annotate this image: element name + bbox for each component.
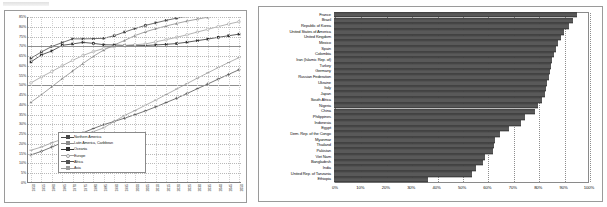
legend-label: Oceania bbox=[74, 146, 87, 152]
y-tick-label: 10% bbox=[6, 161, 26, 165]
bar-category-label: Ethiopia bbox=[259, 177, 333, 182]
bar-category-label: Russian Federation bbox=[259, 75, 333, 80]
bar-category-label: Mexico bbox=[259, 41, 333, 46]
y-tick-label: 40% bbox=[6, 103, 26, 107]
x-tick-label: 2015 bbox=[167, 184, 171, 192]
line-chart-panel: 85%80%75%70%65%60%55%50%45%40%35%30%25%2… bbox=[4, 10, 247, 203]
x-tick-label: 1960 bbox=[52, 184, 56, 192]
bar-category-label: Republic of Korea bbox=[259, 24, 333, 29]
legend-marker-icon bbox=[61, 146, 74, 152]
x-gridline bbox=[218, 17, 219, 182]
x-tick-label: 1990 bbox=[115, 184, 119, 192]
y-tick-label: 15% bbox=[6, 152, 26, 156]
bar-chart-rows: FranceBrazilRepublic of KoreaUnited Stat… bbox=[259, 12, 598, 183]
bar-category-label: Pakistan bbox=[259, 149, 333, 154]
x-tick-label: 1995 bbox=[125, 184, 129, 192]
legend-label: Europe bbox=[74, 153, 85, 159]
x-gridline bbox=[197, 17, 198, 182]
y-tick-label: 25% bbox=[6, 132, 26, 136]
x-tick-label: 2010 bbox=[156, 184, 160, 192]
x-gridline bbox=[177, 17, 178, 182]
y-tick-label: 45% bbox=[6, 93, 26, 97]
legend-marker-icon bbox=[61, 153, 74, 159]
x-gridline bbox=[187, 17, 188, 182]
y-tick-label: 60% bbox=[6, 64, 26, 68]
line-chart-y-axis: 85%80%75%70%65%60%55%50%45%40%35%30%25%2… bbox=[5, 17, 26, 183]
x-gridline bbox=[31, 17, 32, 182]
bar-category-label: Iran (Islamic Rep. of) bbox=[259, 58, 333, 63]
x-tick-label: 1965 bbox=[63, 184, 67, 192]
x-tick-label: 80% bbox=[534, 185, 542, 190]
x-tick-label: 100% bbox=[584, 185, 594, 190]
x-tick-label: 1985 bbox=[104, 184, 108, 192]
x-tick-label: 90% bbox=[560, 185, 568, 190]
x-tick-label: 10% bbox=[356, 185, 364, 190]
x-tick-label: 2025 bbox=[188, 184, 192, 192]
x-tick-label: 2020 bbox=[177, 184, 181, 192]
x-tick-label: 60% bbox=[483, 185, 491, 190]
x-gridline bbox=[52, 17, 53, 182]
bar-chart-x-axis: 0%10%20%30%40%50%60%70%80%90%100% bbox=[335, 185, 589, 197]
bar-fill bbox=[334, 177, 428, 183]
y-tick-label: 30% bbox=[6, 122, 26, 126]
x-gridline bbox=[166, 17, 167, 182]
x-tick-label: 2005 bbox=[146, 184, 150, 192]
bar-category-label: India bbox=[259, 166, 333, 171]
bar-category-label: Dem. Rep. of the Congo bbox=[259, 132, 333, 137]
y-tick-label: 20% bbox=[6, 142, 26, 146]
bar-category-label: Bangladesh bbox=[259, 160, 333, 165]
bar-track bbox=[333, 177, 598, 183]
x-tick-label: 2040 bbox=[219, 184, 223, 192]
y-tick-label: 75% bbox=[6, 35, 26, 39]
x-gridline bbox=[239, 17, 240, 182]
x-gridline bbox=[229, 17, 230, 182]
y-tick-label: 5% bbox=[6, 171, 26, 175]
x-tick-label: 1975 bbox=[84, 184, 88, 192]
y-tick-label: 0% bbox=[6, 181, 26, 185]
x-tick-label: 1970 bbox=[73, 184, 77, 192]
scan-artifact bbox=[3, 2, 49, 6]
legend-marker-icon bbox=[61, 159, 74, 165]
x-tick-label: 50% bbox=[458, 185, 466, 190]
legend-marker-icon bbox=[61, 140, 74, 146]
x-gridline bbox=[41, 17, 42, 182]
line-chart-x-axis: 1950195519601965197019751980198519901995… bbox=[27, 184, 241, 207]
legend-item[interactable]: Asia bbox=[61, 165, 143, 171]
x-tick-label: 2035 bbox=[208, 184, 212, 192]
x-tick-label: 2045 bbox=[229, 184, 233, 192]
bar-category-label: South Africa bbox=[259, 98, 333, 103]
line-chart-legend: Northern AmericaLatin America, Caribbean… bbox=[58, 132, 146, 173]
x-tick-label: 0% bbox=[332, 185, 338, 190]
x-tick-label: 2000 bbox=[136, 184, 140, 192]
bar-chart-panel: FranceBrazilRepublic of KoreaUnited Stat… bbox=[258, 6, 603, 202]
x-tick-label: 1950 bbox=[32, 184, 36, 192]
x-tick-label: 30% bbox=[407, 185, 415, 190]
bar-category-label: Ukraine bbox=[259, 81, 333, 86]
bar-chart-row: Ethiopia bbox=[259, 177, 598, 183]
x-tick-label: 1955 bbox=[42, 184, 46, 192]
legend-label: Latin America, Caribbean bbox=[74, 140, 113, 146]
x-tick-label: 40% bbox=[433, 185, 441, 190]
legend-label: Africa bbox=[74, 159, 83, 165]
x-tick-label: 1980 bbox=[94, 184, 98, 192]
y-tick-label: 65% bbox=[6, 54, 26, 58]
y-tick-label: 80% bbox=[6, 25, 26, 29]
bar-category-label: Philippines bbox=[259, 115, 333, 120]
x-tick-label: 20% bbox=[382, 185, 390, 190]
y-tick-label: 35% bbox=[6, 113, 26, 117]
y-tick-label: 50% bbox=[6, 83, 26, 87]
x-tick-label: 70% bbox=[509, 185, 517, 190]
x-gridline bbox=[208, 17, 209, 182]
legend-marker-icon bbox=[61, 134, 74, 140]
x-tick-label: 2030 bbox=[198, 184, 202, 192]
figure-root: 85%80%75%70%65%60%55%50%45%40%35%30%25%2… bbox=[0, 0, 607, 207]
legend-marker-icon bbox=[61, 165, 74, 171]
y-tick-label: 55% bbox=[6, 74, 26, 78]
y-tick-label: 70% bbox=[6, 44, 26, 48]
x-gridline bbox=[156, 17, 157, 182]
legend-label: Northern America bbox=[74, 134, 101, 140]
x-tick-label: 2050 bbox=[240, 184, 244, 192]
y-tick-label: 85% bbox=[6, 15, 26, 19]
legend-label: Asia bbox=[74, 165, 81, 171]
